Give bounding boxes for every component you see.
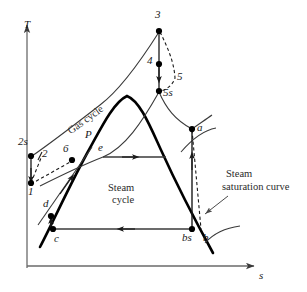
point-label-a: a — [197, 122, 203, 133]
compression-actual-line — [31, 158, 41, 183]
dot-4[interactable] — [156, 61, 162, 67]
point-label-5s: 5s — [163, 87, 173, 98]
saturation-annotation-line1: Steam — [226, 168, 252, 180]
gas-cycle-lower-curve — [40, 92, 212, 186]
point-label-5: 5 — [177, 71, 183, 82]
dot-6[interactable] — [69, 157, 75, 163]
point-label-4: 4 — [147, 55, 153, 66]
steam-cycle-annotation-line1: Steam — [108, 182, 134, 194]
point-label-P: P — [85, 129, 92, 140]
saturation-callout-leader — [205, 196, 228, 214]
point-label-bs: bs — [182, 232, 192, 243]
process-1-to-2-actual — [31, 158, 41, 183]
x-axis-label: s — [259, 269, 263, 281]
process-3-to-5-actual — [160, 32, 175, 91]
point-label-1: 1 — [28, 186, 34, 197]
point-label-c: c — [54, 233, 59, 244]
dot-2s[interactable] — [28, 153, 34, 159]
point-label-2s: 2s — [18, 136, 28, 147]
point-label-3: 3 — [155, 9, 161, 20]
dot-5s[interactable] — [156, 88, 162, 94]
point-label-6: 6 — [63, 143, 69, 154]
dot-a[interactable] — [189, 126, 195, 132]
saturation-curve-lower-branch — [205, 226, 240, 243]
steam-cycle-annotation-line2: cycle — [112, 194, 134, 206]
point-label-d: d — [43, 198, 49, 209]
point-label-b: b — [203, 232, 209, 243]
ts-diagram-figure: T s 1 2 2s 3 4 5 5s 6 P e a b bs c d Gas… — [0, 0, 307, 292]
y-axis-label: T — [24, 18, 30, 30]
point-label-e: e — [98, 142, 103, 153]
expansion-actual-line — [160, 32, 175, 91]
dot-d[interactable] — [48, 213, 54, 219]
ts-diagram-canvas — [0, 0, 307, 292]
saturation-callout-arrow — [205, 196, 228, 214]
point-label-2: 2 — [42, 148, 48, 159]
saturation-annotation-line2: saturation curve — [222, 181, 289, 193]
dot-3[interactable] — [156, 28, 162, 34]
